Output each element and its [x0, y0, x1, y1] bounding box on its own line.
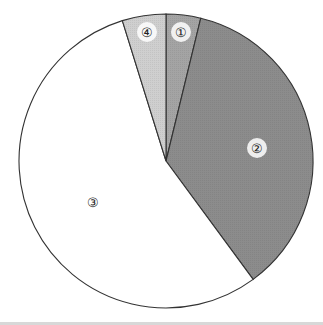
slice-label: ③	[87, 195, 99, 210]
pie-slices	[19, 14, 313, 308]
slice-label: ①	[175, 25, 187, 40]
slice-label: ④	[141, 25, 153, 40]
pie-chart: ①②③④	[0, 0, 323, 325]
slice-label: ②	[251, 141, 263, 156]
